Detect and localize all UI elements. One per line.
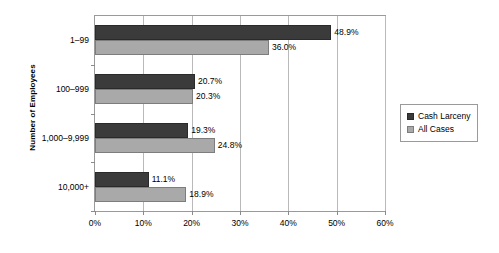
x-axis-tick-label: 30% xyxy=(220,218,260,228)
bar-all-cases xyxy=(95,89,193,104)
x-axis-tick-label: 20% xyxy=(172,218,212,228)
legend-swatch-icon xyxy=(407,126,414,133)
bar-group: 19.3%24.8%1,000–9,999 xyxy=(95,114,385,163)
bar-all-cases xyxy=(95,187,186,202)
legend-item-label: Cash Larceny xyxy=(418,110,470,123)
bar-cash-larceny xyxy=(95,74,195,89)
bar-value-label: 36.0% xyxy=(272,40,296,55)
x-axis-tick-mark xyxy=(385,211,386,215)
bar-value-label: 48.9% xyxy=(334,25,358,40)
x-axis-tick-mark xyxy=(192,211,193,215)
bar-group: 11.1%18.9%10,000+ xyxy=(95,162,385,211)
x-axis-tick-label: 50% xyxy=(317,218,357,228)
bar-value-label: 24.8% xyxy=(218,138,242,153)
bar-cash-larceny xyxy=(95,25,331,40)
bar-group: 48.9%36.0%1–99 xyxy=(95,16,385,65)
y-axis-category-label: 10,000+ xyxy=(0,182,89,192)
chart-legend: Cash Larceny All Cases xyxy=(400,104,478,142)
x-axis-tick-label: 60% xyxy=(365,218,405,228)
y-axis-category-label: 100–999 xyxy=(0,84,89,94)
bar-cash-larceny xyxy=(95,123,188,138)
legend-swatch-icon xyxy=(407,113,414,120)
legend-item-all-cases: All Cases xyxy=(407,123,470,136)
bar-chart: Number of Employees 0%10%20%30%40%50%60%… xyxy=(0,0,499,253)
plot-area: 0%10%20%30%40%50%60%48.9%36.0%1–9920.7%2… xyxy=(94,15,386,212)
legend-item-cash-larceny: Cash Larceny xyxy=(407,110,470,123)
bar-value-label: 20.7% xyxy=(198,74,222,89)
x-axis-tick-mark xyxy=(95,211,96,215)
x-axis-tick-label: 40% xyxy=(268,218,308,228)
y-axis-category-label: 1,000–9,999 xyxy=(0,133,89,143)
gridline xyxy=(385,16,386,211)
y-axis-category-label: 1–99 xyxy=(0,35,89,45)
x-axis-tick-mark xyxy=(337,211,338,215)
x-axis-tick-mark xyxy=(240,211,241,215)
legend-item-label: All Cases xyxy=(418,123,454,136)
bar-group: 20.7%20.3%100–999 xyxy=(95,65,385,114)
bar-all-cases xyxy=(95,138,215,153)
x-axis-tick-mark xyxy=(143,211,144,215)
x-axis-tick-label: 0% xyxy=(75,218,115,228)
y-axis-title: Number of Employees xyxy=(28,28,37,188)
bar-value-label: 20.3% xyxy=(196,89,220,104)
x-axis-tick-mark xyxy=(288,211,289,215)
y-axis-tick-mark xyxy=(91,211,95,212)
bar-cash-larceny xyxy=(95,172,149,187)
bar-value-label: 18.9% xyxy=(189,187,213,202)
x-axis-tick-label: 10% xyxy=(123,218,163,228)
bar-value-label: 11.1% xyxy=(152,172,175,187)
bar-all-cases xyxy=(95,40,269,55)
bar-value-label: 19.3% xyxy=(191,123,215,138)
